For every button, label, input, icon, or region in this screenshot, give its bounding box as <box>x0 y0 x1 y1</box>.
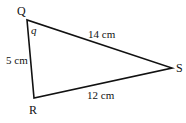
side-label-qs: 14 cm <box>88 28 116 40</box>
angle-label-q: q <box>31 24 37 36</box>
vertex-label-s: S <box>176 61 183 75</box>
side-label-rs: 12 cm <box>87 89 115 101</box>
vertex-label-q: Q <box>17 4 26 18</box>
side-label-qr: 5 cm <box>6 54 28 66</box>
vertex-label-r: R <box>29 103 37 117</box>
triangle-diagram: Q R S q 14 cm 5 cm 12 cm <box>0 0 186 123</box>
